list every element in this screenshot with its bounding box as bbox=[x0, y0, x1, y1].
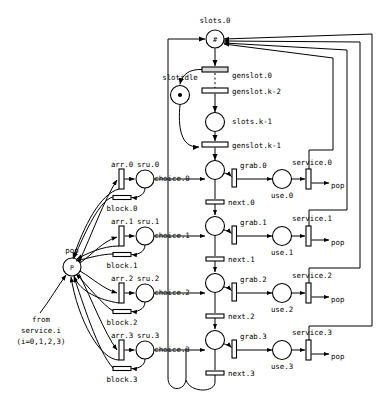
label-genslot-k-1: genslot.k-1 bbox=[232, 141, 281, 150]
place-choice-0[interactable] bbox=[206, 161, 225, 180]
label-block-2: block.2 bbox=[106, 318, 137, 327]
label-service-2: service.2 bbox=[292, 271, 332, 280]
label-genslot-k-2: genslot.k-2 bbox=[232, 87, 281, 96]
transition-block-0[interactable] bbox=[113, 196, 131, 200]
transition-block-3[interactable] bbox=[113, 367, 131, 371]
place-slots-k-1[interactable] bbox=[206, 113, 225, 132]
place-sru-2[interactable] bbox=[136, 284, 154, 302]
place-use-2[interactable] bbox=[273, 284, 292, 303]
label-arr-3: arr.3 bbox=[111, 331, 133, 340]
label-from-service-range: (i=0,1,2,3) bbox=[17, 337, 66, 346]
transition-arr-3[interactable] bbox=[119, 340, 124, 360]
transition-arr-2[interactable] bbox=[119, 283, 124, 303]
label-choice-1: choice.1 bbox=[154, 231, 190, 240]
label-genslot-0: genslot.0 bbox=[232, 71, 272, 80]
label-sru-2: sru.2 bbox=[137, 274, 159, 283]
place-sru-3[interactable] bbox=[136, 341, 154, 359]
label-grab-0: grab.0 bbox=[240, 161, 267, 170]
transition-service-1[interactable] bbox=[306, 226, 311, 246]
svg-text:P: P bbox=[70, 264, 74, 272]
arc-choice3-to-grab3 bbox=[224, 344, 232, 348]
transition-service-0[interactable] bbox=[306, 169, 311, 189]
label-use-1: use.1 bbox=[271, 248, 293, 257]
arc-sru2-to-block2 bbox=[132, 302, 146, 312]
label-from-service-i: service.i bbox=[21, 326, 61, 335]
transition-grab-1[interactable] bbox=[232, 226, 237, 244]
label-use-2: use.2 bbox=[271, 305, 293, 314]
label-pop-0: pop bbox=[331, 181, 344, 190]
label-from: from bbox=[32, 315, 50, 324]
label-grab-3: grab.3 bbox=[240, 332, 267, 341]
label-service-3: service.3 bbox=[292, 328, 332, 337]
place-use-0[interactable] bbox=[273, 170, 292, 189]
place-choice-3[interactable] bbox=[206, 331, 225, 350]
arc-from-service-into-pool bbox=[40, 275, 66, 313]
label-arr-0: arr.0 bbox=[111, 160, 133, 169]
feedback-service0-to-slots0 bbox=[224, 44, 333, 169]
label-next-1: next.1 bbox=[228, 255, 255, 264]
arc-sru1-to-block1 bbox=[132, 245, 146, 255]
label-block-3: block.3 bbox=[106, 375, 137, 384]
transition-grab-3[interactable] bbox=[232, 340, 237, 358]
arc-choice1-to-grab1 bbox=[224, 230, 232, 234]
transition-next-0[interactable] bbox=[206, 200, 224, 204]
token-slotidle bbox=[178, 93, 182, 97]
arc-choice2-to-grab2 bbox=[224, 287, 232, 291]
label-service-1: service.1 bbox=[292, 214, 332, 223]
transition-next-2[interactable] bbox=[206, 314, 224, 318]
transition-genslot-k-1[interactable] bbox=[202, 142, 228, 147]
arc-block2-to-pool bbox=[76, 274, 113, 311]
label-arr-2: arr.2 bbox=[111, 274, 133, 283]
place-choice-2[interactable] bbox=[206, 274, 225, 293]
label-arr-1: arr.1 bbox=[111, 217, 133, 226]
arc-sru0-to-block0 bbox=[132, 188, 146, 198]
label-sru-3: sru.3 bbox=[137, 331, 159, 340]
label-pop-2: pop bbox=[331, 295, 344, 304]
place-use-3[interactable] bbox=[273, 341, 292, 360]
arc-slotidle-to-genslotk1 bbox=[179, 105, 199, 147]
transition-service-2[interactable] bbox=[306, 283, 311, 303]
arc-choice0-to-grab0 bbox=[224, 173, 232, 177]
label-pop-3: pop bbox=[331, 352, 344, 361]
label-sru-0: sru.0 bbox=[137, 160, 159, 169]
transition-arr-0[interactable] bbox=[119, 169, 124, 189]
place-use-1[interactable] bbox=[273, 227, 292, 246]
arc-sru3-to-block3 bbox=[132, 359, 146, 369]
place-sru-0[interactable] bbox=[136, 170, 154, 188]
transition-genslot-0[interactable] bbox=[202, 67, 228, 72]
rail-bottom-loop bbox=[168, 348, 186, 389]
label-service-0: service.0 bbox=[292, 158, 332, 167]
label-slots-0: slots.0 bbox=[199, 16, 230, 25]
transition-service-3[interactable] bbox=[306, 340, 311, 360]
transition-grab-0[interactable] bbox=[232, 169, 237, 187]
label-grab-2: grab.2 bbox=[240, 275, 267, 284]
label-sru-1: sru.1 bbox=[137, 217, 159, 226]
label-pop-1: pop bbox=[331, 238, 344, 247]
petri-net-canvas: # slots.0 genslot.0 genslot.k-2 slots.k-… bbox=[0, 0, 382, 406]
place-slotidle[interactable] bbox=[171, 86, 190, 105]
transition-block-1[interactable] bbox=[113, 253, 131, 257]
transition-genslot-k-2[interactable] bbox=[202, 88, 228, 93]
label-choice-3: choice.3 bbox=[154, 345, 190, 354]
transition-next-3[interactable] bbox=[206, 371, 224, 375]
label-choice-0: choice.0 bbox=[154, 174, 190, 183]
label-use-0: use.0 bbox=[271, 191, 293, 200]
label-next-0: next.0 bbox=[228, 198, 255, 207]
label-slots-k-1: slots.k-1 bbox=[232, 117, 272, 126]
label-block-0: block.0 bbox=[106, 204, 137, 213]
label-block-1: block.1 bbox=[106, 261, 137, 270]
place-sru-1[interactable] bbox=[136, 227, 154, 245]
label-next-2: next.2 bbox=[228, 312, 255, 321]
transition-next-1[interactable] bbox=[206, 257, 224, 261]
place-choice-1[interactable] bbox=[206, 217, 225, 236]
transition-block-2[interactable] bbox=[113, 310, 131, 314]
arc-next3-wrap bbox=[186, 375, 215, 390]
label-grab-1: grab.1 bbox=[240, 218, 267, 227]
petri-net-diagram: # slots.0 genslot.0 genslot.k-2 slots.k-… bbox=[0, 0, 382, 406]
label-choice-2: choice.2 bbox=[154, 288, 190, 297]
transition-grab-2[interactable] bbox=[232, 283, 237, 301]
label-next-3: next.3 bbox=[228, 369, 255, 378]
transition-arr-1[interactable] bbox=[119, 226, 124, 246]
place-slots-0[interactable]: # bbox=[206, 30, 224, 48]
label-use-3: use.3 bbox=[271, 362, 293, 371]
